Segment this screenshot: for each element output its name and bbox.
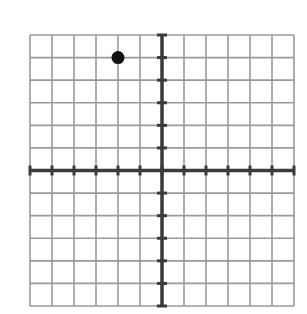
data-point	[112, 51, 125, 64]
coordinate-plane	[0, 0, 307, 314]
data-points	[112, 51, 125, 64]
